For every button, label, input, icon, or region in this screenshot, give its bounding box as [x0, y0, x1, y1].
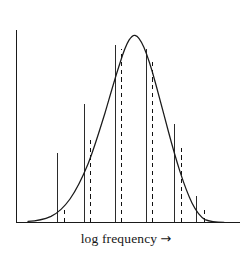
x-axis-label: log frequency→	[0, 231, 252, 247]
right-arrow-icon: →	[157, 231, 171, 246]
distribution-plot	[0, 0, 252, 262]
figure-container: log frequency→	[0, 0, 252, 262]
x-axis-label-text: log frequency	[81, 231, 158, 246]
